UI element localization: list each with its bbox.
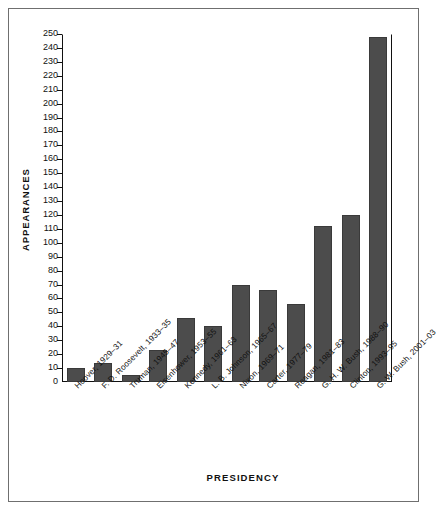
- y-axis-tick-label: 100: [32, 238, 58, 247]
- y-axis-tick-label: 10: [32, 363, 58, 372]
- y-axis-tick-label: 90: [32, 252, 58, 261]
- y-axis-tick-label: 130: [32, 196, 58, 205]
- bar-chart: APPEARANCES 0102030405060708090100110120…: [0, 0, 436, 512]
- y-axis-tick-mark: [57, 354, 62, 355]
- y-axis-tick-label: 70: [32, 280, 58, 289]
- y-axis-tick-mark: [57, 312, 62, 313]
- y-axis-tick-mark: [57, 257, 62, 258]
- y-axis-tick-label: 20: [32, 349, 58, 358]
- y-axis-tick-mark: [57, 104, 62, 105]
- y-axis-tick-label: 30: [32, 335, 58, 344]
- y-axis-tick-mark: [57, 118, 62, 119]
- y-axis-tick-mark: [57, 271, 62, 272]
- y-axis-tick-mark: [57, 90, 62, 91]
- y-axis-tick-label: 190: [32, 113, 58, 122]
- y-axis-tick-label: 80: [32, 266, 58, 275]
- y-axis-tick-mark: [57, 340, 62, 341]
- y-axis-tick-mark: [57, 159, 62, 160]
- y-axis-tick-mark: [57, 62, 62, 63]
- y-axis-tick-mark: [57, 48, 62, 49]
- y-axis-tick-mark: [57, 215, 62, 216]
- y-axis-tick-label: 0: [32, 377, 58, 386]
- y-axis-tick-mark: [57, 285, 62, 286]
- y-axis-tick-mark: [57, 145, 62, 146]
- y-axis-tick-mark: [57, 187, 62, 188]
- y-axis-tick-label: 40: [32, 321, 58, 330]
- x-axis-tick-labels: Hoover, 1929–31F. D. Roosevelt, 1933–35T…: [62, 384, 422, 484]
- y-axis-tick-label: 60: [32, 293, 58, 302]
- y-axis-tick-label: 240: [32, 43, 58, 52]
- plot-area: [62, 34, 392, 382]
- y-axis-tick-label: 160: [32, 154, 58, 163]
- y-axis-tick-mark: [57, 368, 62, 369]
- y-axis-tick-mark: [57, 173, 62, 174]
- y-axis-tick-label: 140: [32, 182, 58, 191]
- y-axis-tick-mark: [57, 201, 62, 202]
- y-axis-tick-label: 50: [32, 307, 58, 316]
- y-axis-tick-label: 230: [32, 57, 58, 66]
- y-axis-tick-label: 110: [32, 224, 58, 233]
- y-axis-tick-mark: [57, 131, 62, 132]
- y-axis-tick-label: 170: [32, 140, 58, 149]
- y-axis-tick-label: 200: [32, 99, 58, 108]
- y-axis-tick-label: 120: [32, 210, 58, 219]
- y-axis-tick-mark: [57, 243, 62, 244]
- bars-layer: [62, 34, 392, 382]
- y-axis-tick-label: 210: [32, 85, 58, 94]
- y-axis-tick-mark: [57, 326, 62, 327]
- y-axis-tick-mark: [57, 76, 62, 77]
- y-axis-tick-label: 220: [32, 71, 58, 80]
- y-axis-tick-mark: [57, 298, 62, 299]
- y-axis-tick-label: 250: [32, 29, 58, 38]
- y-axis-tick-mark: [57, 229, 62, 230]
- y-axis-tick-label: 180: [32, 126, 58, 135]
- x-axis-title: PRESIDENCY: [0, 472, 436, 483]
- y-axis-tick-mark: [57, 34, 62, 35]
- y-axis-tick-label: 150: [32, 168, 58, 177]
- y-axis-tick-labels: 0102030405060708090100110120130140150160…: [30, 0, 58, 512]
